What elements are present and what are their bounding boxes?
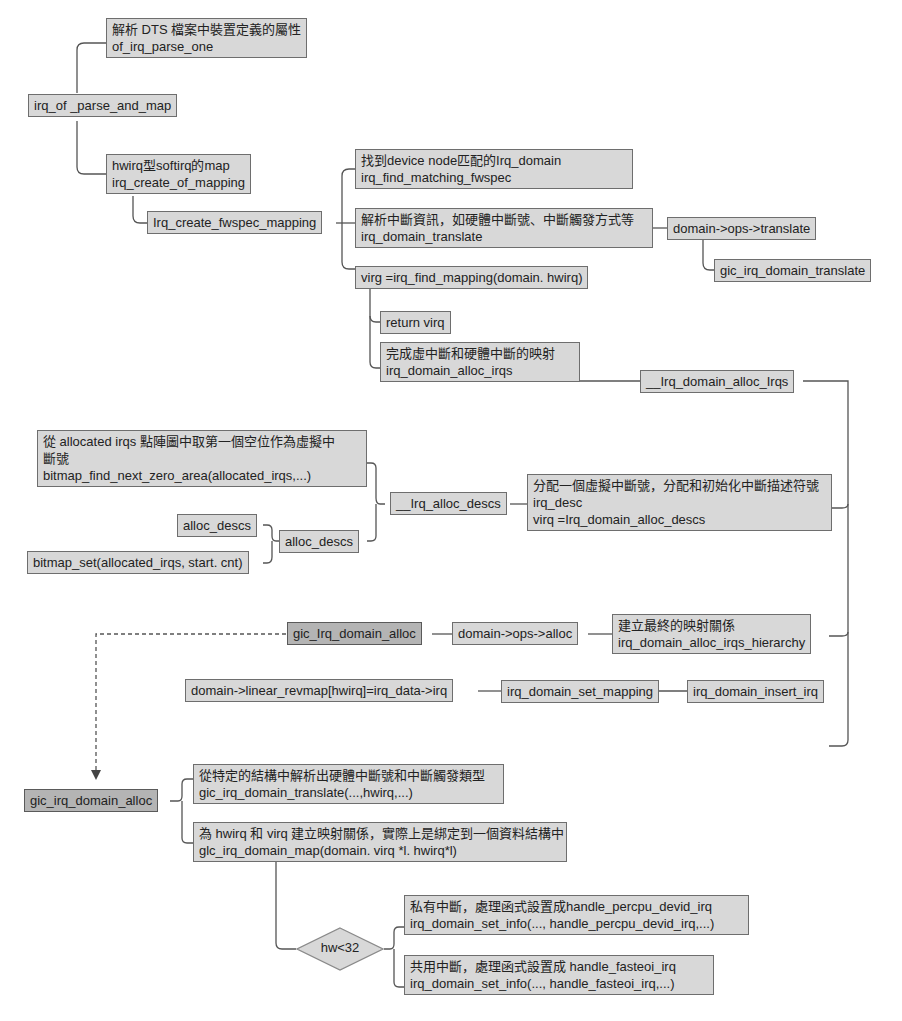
- node-ops-alloc: domain->ops->alloc: [452, 622, 578, 645]
- node-func: bitmap_find_next_zero_area(allocated_irq…: [43, 467, 361, 484]
- node-irq-find-mapping: virg =irq_find_mapping(domain. hwirq): [355, 266, 588, 289]
- node-func: irq_domain_alloc_irqs_hierarchy: [618, 634, 805, 651]
- node-desc: 共用中斷，處理函式設置成 handle_fasteoi_irq: [410, 958, 708, 975]
- node-func: bitmap_set(allocated_irqs, start. cnt): [33, 554, 243, 571]
- node-func: irq_domain_set_mapping: [507, 683, 653, 700]
- flow-diagram: 解析 DTS 檔案中裝置定義的屬性 of_irq_parse_one irq_o…: [0, 0, 902, 1021]
- node-desc: 分配一個虛擬中斷號，分配和初始化中斷描述符號: [533, 477, 826, 494]
- node-irq-of-parse-and-map: irq_of _parse_and_map: [28, 94, 177, 117]
- node-bitmap-set: bitmap_set(allocated_irqs, start. cnt): [27, 551, 249, 574]
- node-func: of_irq_parse_one: [112, 38, 301, 55]
- node-struct: irq_desc: [533, 494, 826, 511]
- node-desc: 私有中斷，處理函式設置成handle_percpu_devid_irq: [410, 898, 743, 915]
- node-func: irq_domain_insert_irq: [693, 683, 818, 700]
- node-func: irq_find_matching_fwspec: [361, 169, 627, 186]
- node-gic-domain-map: 為 hwirq 和 virq 建立映射關係，實際上是綁定到一個資料結構中 glc…: [193, 822, 567, 862]
- node-desc: 從特定的結構中解析出硬體中斷號和中斷觸發類型: [199, 767, 498, 784]
- node-percpu-irq: 私有中斷，處理函式設置成handle_percpu_devid_irq irq_…: [404, 895, 749, 935]
- node-func: irq_of _parse_and_map: [34, 97, 171, 114]
- node-func: virg =irq_find_mapping(domain. hwirq): [361, 269, 582, 286]
- node-desc: 從 allocated irqs 點陣圖中取第一個空位作為虛擬中: [43, 433, 361, 450]
- node-of-irq-parse-one: 解析 DTS 檔案中裝置定義的屬性 of_irq_parse_one: [106, 18, 307, 58]
- node-func: gic_Irq_domain_alloc: [293, 625, 416, 642]
- node-func: domain->ops->translate: [673, 220, 810, 237]
- node-irq-domain-translate: 解析中斷資訊，如硬體中斷號、中斷觸發方式等 irq_domain_transla…: [355, 208, 653, 248]
- node-desc: 完成虛中斷和硬體中斷的映射: [386, 345, 574, 362]
- node-func: return virq: [386, 314, 445, 331]
- node-func: virq =Irq_domain_alloc_descs: [533, 511, 826, 528]
- node-linear-revmap: domain->linear_revmap[hwirq]=irq_data->i…: [185, 679, 453, 702]
- node-func: domain->linear_revmap[hwirq]=irq_data->i…: [191, 682, 447, 699]
- node-irq-find-matching-fwspec: 找到device node匹配的Irq_domain irq_find_matc…: [355, 149, 633, 189]
- node-func: glc_irq_domain_map(domain. virq *l. hwir…: [199, 842, 561, 859]
- node-func: irq_create_of_mapping: [112, 174, 245, 191]
- node-irq-domain-alloc-descs: 分配一個虛擬中斷號，分配和初始化中斷描述符號 irq_desc virq =Ir…: [527, 474, 832, 531]
- node-irq-domain-insert-irq: irq_domain_insert_irq: [687, 680, 824, 703]
- node-func: gic_irq_domain_alloc: [30, 792, 152, 809]
- node-desc: 找到device node匹配的Irq_domain: [361, 152, 627, 169]
- decision-hw-lt-32: hw<32: [296, 927, 384, 971]
- node-desc-cont: 斷號: [43, 450, 361, 467]
- node-desc: 解析 DTS 檔案中裝置定義的屬性: [112, 21, 301, 38]
- node-alloc-descs-leaf: alloc_descs: [177, 514, 257, 537]
- node-alloc-descs: alloc_descs: [279, 530, 359, 553]
- node-__irq-alloc-descs: __Irq_alloc_descs: [390, 492, 507, 515]
- node-func: Irq_create_fwspec_mapping: [153, 214, 316, 231]
- node-func: irq_domain_translate: [361, 228, 647, 245]
- node-__irq-domain-alloc-irqs: __Irq_domain_alloc_Irqs: [640, 370, 794, 393]
- node-func: irq_domain_set_info(..., handle_percpu_d…: [410, 915, 743, 932]
- node-return-virq: return virq: [380, 311, 451, 334]
- node-gic-irq-domain-alloc-ref: gic_Irq_domain_alloc: [287, 622, 422, 645]
- node-bitmap-find-next-zero-area: 從 allocated irqs 點陣圖中取第一個空位作為虛擬中 斷號 bitm…: [37, 430, 367, 487]
- node-func: __Irq_domain_alloc_Irqs: [646, 373, 788, 390]
- node-func: alloc_descs: [183, 517, 251, 534]
- node-func: gic_irq_domain_translate: [720, 262, 865, 279]
- node-func: irq_domain_alloc_irqs: [386, 362, 574, 379]
- node-irq-domain-set-mapping: irq_domain_set_mapping: [501, 680, 659, 703]
- node-irq-create-of-mapping: hwirq型softirq的map irq_create_of_mapping: [106, 154, 251, 194]
- node-desc: 建立最終的映射關係: [618, 617, 805, 634]
- node-func: domain->ops->alloc: [458, 625, 572, 642]
- node-ops-translate: domain->ops->translate: [667, 217, 816, 240]
- node-func: irq_domain_set_info(..., handle_fasteoi_…: [410, 975, 708, 992]
- node-irq-domain-alloc-irqs: 完成虛中斷和硬體中斷的映射 irq_domain_alloc_irqs: [380, 342, 580, 382]
- decision-label: hw<32: [296, 940, 384, 955]
- node-fasteoi-irq: 共用中斷，處理函式設置成 handle_fasteoi_irq irq_doma…: [404, 955, 714, 995]
- node-gic-irq-domain-alloc: gic_irq_domain_alloc: [24, 789, 158, 812]
- node-gic-irq-domain-translate: gic_irq_domain_translate: [714, 259, 871, 282]
- node-func: gic_irq_domain_translate(...,hwirq,...): [199, 784, 498, 801]
- node-gic-translate: 從特定的結構中解析出硬體中斷號和中斷觸發類型 gic_irq_domain_tr…: [193, 764, 504, 804]
- node-desc: 為 hwirq 和 virq 建立映射關係，實際上是綁定到一個資料結構中: [199, 825, 561, 842]
- node-desc: hwirq型softirq的map: [112, 157, 245, 174]
- node-irq-create-fwspec-mapping: Irq_create_fwspec_mapping: [147, 211, 322, 234]
- node-irq-domain-alloc-irqs-hierarchy: 建立最終的映射關係 irq_domain_alloc_irqs_hierarch…: [612, 614, 811, 654]
- node-func: alloc_descs: [285, 533, 353, 550]
- node-desc: 解析中斷資訊，如硬體中斷號、中斷觸發方式等: [361, 211, 647, 228]
- node-func: __Irq_alloc_descs: [396, 495, 501, 512]
